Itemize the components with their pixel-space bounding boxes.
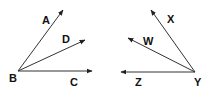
angle-figure-left: ADCB [9, 10, 92, 88]
ray-BA [18, 10, 63, 71]
point-label-x: X [167, 13, 175, 25]
point-label-d: D [62, 33, 70, 45]
point-label-z: Z [135, 76, 142, 88]
vertex-label-y: Y [194, 76, 202, 88]
point-label-c: C [70, 76, 78, 88]
angle-diagram: ADCBXWZY [0, 0, 207, 88]
angle-figure-right: XWZY [121, 10, 202, 88]
ray-YW [128, 38, 195, 72]
vertex-label-b: B [9, 72, 17, 84]
point-label-w: W [143, 35, 154, 47]
ray-BD [18, 40, 85, 71]
point-label-a: A [42, 14, 50, 26]
